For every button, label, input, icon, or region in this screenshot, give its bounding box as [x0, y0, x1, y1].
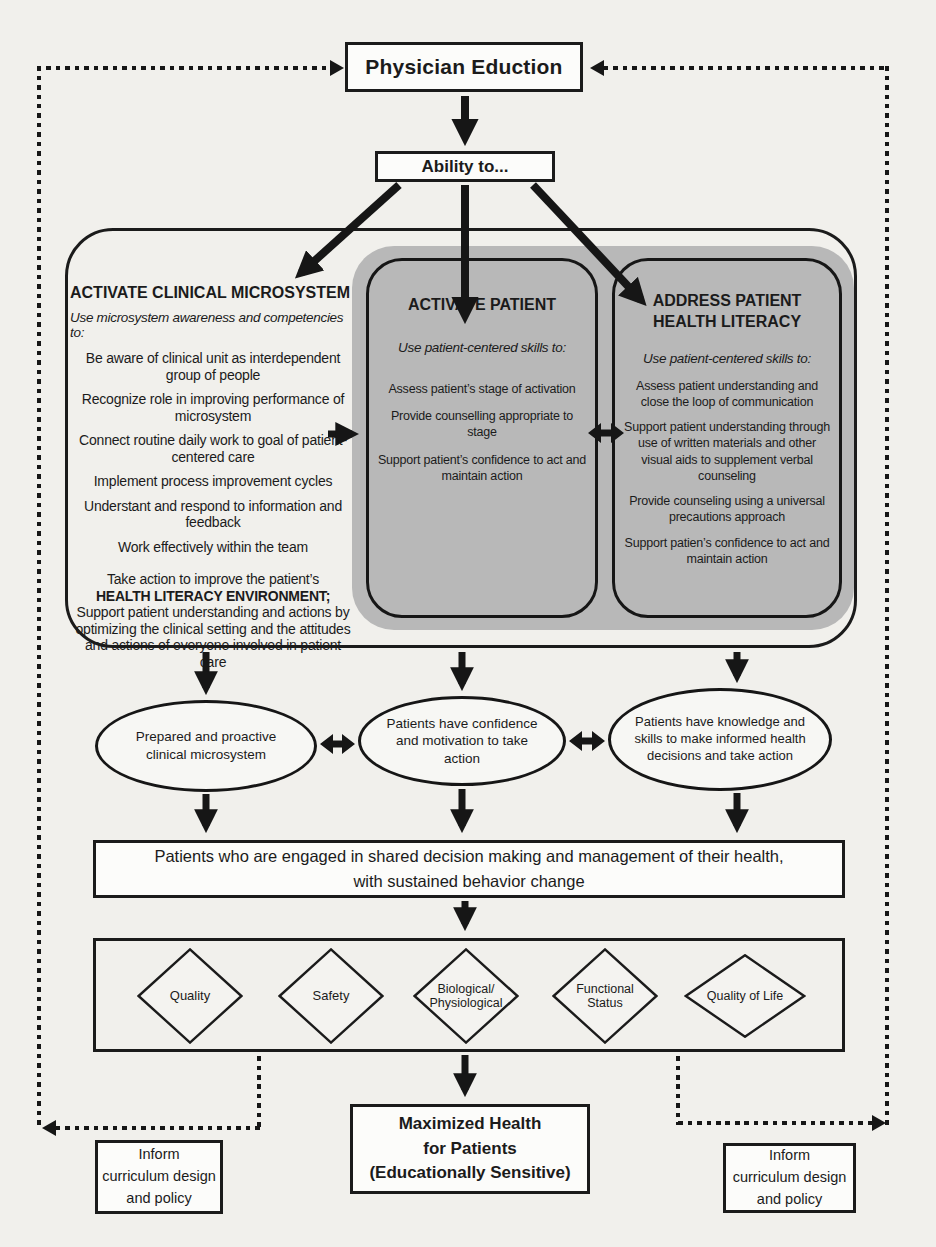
- microsystem-closing-bold: HEALTH LITERACY ENVIRONMENT;: [70, 588, 356, 605]
- dotted-line-top-right: [604, 66, 885, 70]
- dotted-arrowhead-left-into-title-icon: [330, 60, 344, 76]
- activate-patient-item: Support patient’s confidence to act and …: [377, 452, 587, 485]
- microsystem-item: Implement process improvement cycles: [70, 473, 356, 490]
- diamond-label: Quality of Life: [707, 989, 783, 1003]
- maximized-line2: for Patients: [423, 1137, 517, 1162]
- engaged-line2: with sustained behavior change: [353, 869, 584, 894]
- diamond-label-2: Status: [576, 996, 634, 1010]
- diamond-label: Safety: [313, 989, 350, 1004]
- ellipse-text: Prepared and proactive clinical microsys…: [116, 728, 296, 763]
- activate-patient-subtitle: Use patient-centered skills to:: [377, 340, 587, 355]
- diamond-quality-of-life: Quality of Life: [684, 954, 806, 1038]
- double-arrow-ellipse-2-3: [569, 731, 605, 751]
- address-health-literacy-box: ADDRESS PATIENT HEALTH LITERACY Use pati…: [612, 258, 842, 618]
- diamond-safety: Safety: [278, 948, 384, 1044]
- health-literacy-item: Support patien’s confidence to act and m…: [623, 535, 831, 568]
- dotted-riser-bottom-left: [257, 1056, 261, 1130]
- microsystem-closing-rest: Support patient understanding and action…: [70, 604, 356, 670]
- ellipse-text: Patients have confidence and motivation …: [379, 715, 545, 768]
- diamond-label: Biological/: [430, 982, 503, 996]
- diamond-biological-physiological: Biological/Physiological: [413, 948, 519, 1044]
- health-literacy-item: Provide counseling using a universal pre…: [623, 493, 831, 526]
- inform-right-line3: and policy: [757, 1189, 822, 1211]
- dotted-line-left-margin: [37, 66, 41, 1130]
- dotted-arrowhead-right-into-title-icon: [590, 60, 604, 76]
- dotted-arrowhead-bottom-left-icon: [42, 1120, 56, 1136]
- diamond-label: Quality: [170, 989, 210, 1004]
- inform-curriculum-box-left: Inform curriculum design and policy: [95, 1140, 223, 1214]
- engaged-line1: Patients who are engaged in shared decis…: [154, 844, 783, 869]
- ellipse-prepared-microsystem: Prepared and proactive clinical microsys…: [95, 700, 317, 792]
- dotted-line-bottom-right: [678, 1121, 872, 1125]
- microsystem-subtitle: Use microsystem awareness and competenci…: [70, 310, 356, 340]
- dotted-line-bottom-left: [56, 1126, 261, 1130]
- health-literacy-title-line1: ADDRESS PATIENT: [623, 291, 831, 312]
- health-literacy-item: Support patient understanding through us…: [623, 419, 831, 484]
- diamond-quality: Quality: [137, 948, 243, 1044]
- microsystem-item: Be aware of clinical unit as interdepend…: [70, 350, 356, 383]
- inform-left-line1: Inform: [138, 1144, 179, 1166]
- dotted-line-top-left: [37, 66, 330, 70]
- diamond-label-2: Physiological: [430, 996, 503, 1010]
- diamond-functional-status: FunctionalStatus: [552, 948, 658, 1044]
- activate-patient-item: Provide counselling appropriate to stage: [377, 408, 587, 441]
- inform-curriculum-box-right: Inform curriculum design and policy: [723, 1143, 856, 1213]
- maximized-line1: Maximized Health: [399, 1112, 542, 1137]
- microsystem-closing-lead: Take action to improve the patient’s: [70, 571, 356, 588]
- ellipse-text: Patients have knowledge and skills to ma…: [629, 714, 811, 765]
- inform-left-line3: and policy: [126, 1188, 191, 1210]
- inform-left-line2: curriculum design: [102, 1166, 216, 1188]
- maximized-line3: (Educationally Sensitive): [369, 1161, 570, 1186]
- maximized-health-box: Maximized Health for Patients (Education…: [350, 1104, 590, 1194]
- activate-patient-title: ACTIVATE PATIENT: [377, 295, 587, 316]
- health-literacy-item: Assess patient understanding and close t…: [623, 378, 831, 411]
- microsystem-title: ACTIVATE CLINICAL MICROSYSTEM: [70, 284, 356, 302]
- physician-education-box: Physician Eduction: [345, 42, 583, 92]
- inform-right-line2: curriculum design: [733, 1167, 847, 1189]
- microsystem-item: Understant and respond to information an…: [70, 498, 356, 531]
- physician-education-title: Physician Eduction: [365, 55, 562, 79]
- dotted-riser-bottom-right: [676, 1056, 680, 1125]
- double-arrow-ellipse-1-2: [320, 734, 355, 754]
- ellipse-patient-knowledge: Patients have knowledge and skills to ma…: [608, 688, 832, 791]
- activate-clinical-microsystem-section: ACTIVATE CLINICAL MICROSYSTEM Use micros…: [70, 284, 356, 670]
- activate-patient-item: Assess patient’s stage of activation: [377, 381, 587, 397]
- inform-right-line1: Inform: [769, 1145, 810, 1167]
- diagram-canvas: Physician Eduction Ability to... ACTIVAT…: [0, 0, 936, 1247]
- engaged-patients-box: Patients who are engaged in shared decis…: [93, 840, 845, 898]
- microsystem-item: Work effectively within the team: [70, 539, 356, 556]
- activate-patient-box: ACTIVATE PATIENT Use patient-centered sk…: [366, 258, 598, 618]
- health-literacy-title-line2: HEALTH LITERACY: [623, 312, 831, 333]
- health-literacy-subtitle: Use patient-centered skills to:: [623, 351, 831, 366]
- dotted-arrowhead-bottom-right-icon: [872, 1115, 886, 1131]
- ellipse-patient-confidence: Patients have confidence and motivation …: [358, 696, 566, 786]
- microsystem-item: Recognize role in improving performance …: [70, 391, 356, 424]
- ability-to-box: Ability to...: [375, 151, 555, 182]
- microsystem-item: Connect routine daily work to goal of pa…: [70, 432, 356, 465]
- dotted-line-right-margin: [885, 66, 889, 1125]
- diamond-label: Functional: [576, 982, 634, 996]
- ability-to-label: Ability to...: [422, 157, 509, 177]
